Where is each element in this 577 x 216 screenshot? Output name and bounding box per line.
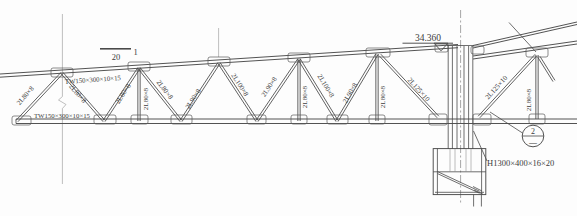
bottom-chord-label: TW150×300×10×15 xyxy=(34,112,91,119)
section-mark-scale: 20 xyxy=(112,52,121,62)
web-label: 2L80×8 xyxy=(15,84,36,107)
web-label: 2L125×10 xyxy=(484,74,510,101)
gusset-plate xyxy=(94,115,116,124)
web-label: 2L80×8 xyxy=(301,85,309,108)
column-section-label: H1300×400×16×20 xyxy=(487,158,554,168)
column-head-box xyxy=(433,149,486,207)
web-label: 2L80×8 xyxy=(67,83,88,106)
truss-web-member-line xyxy=(538,58,553,82)
truss-web-member-line xyxy=(338,55,378,122)
web-label: 2L100×8 xyxy=(316,73,336,100)
drawing-labels: TW150×300×10×15TW150×300×10×152L80×82L80… xyxy=(15,33,554,168)
truss-web-member-line xyxy=(379,56,437,118)
web-label: 2L80×8 xyxy=(525,88,533,111)
truss-drawing-canvas: TW150×300×10×15TW150×300×10×152L80×82L80… xyxy=(0,0,577,216)
gusset-plate xyxy=(131,115,148,124)
truss-web-member-line xyxy=(540,56,555,80)
detail-bubble-number: 2 xyxy=(531,127,535,136)
gusset-plate xyxy=(369,115,385,124)
bottom-chord xyxy=(16,119,577,124)
web-label: 2L80×8 xyxy=(142,87,150,110)
web-members xyxy=(16,53,555,121)
column-label-leader xyxy=(474,131,488,161)
detail-bubble-sheet: — xyxy=(528,138,538,147)
grid-line-left xyxy=(59,14,67,184)
web-label: 2L125×10 xyxy=(406,76,432,103)
top-chord xyxy=(0,22,577,77)
elevation-value: 34.360 xyxy=(415,33,441,43)
gusset-plate xyxy=(291,115,307,124)
web-label: 2L80×8 xyxy=(379,85,387,108)
truss-web-member-line xyxy=(220,62,258,120)
section-mark-number: 1 xyxy=(133,47,137,57)
web-label: 2L90×8 xyxy=(184,87,203,110)
web-label: 2L80×8 xyxy=(114,82,133,105)
engineering-drawing: TW150×300×10×15TW150×300×10×152L80×82L80… xyxy=(0,0,577,216)
